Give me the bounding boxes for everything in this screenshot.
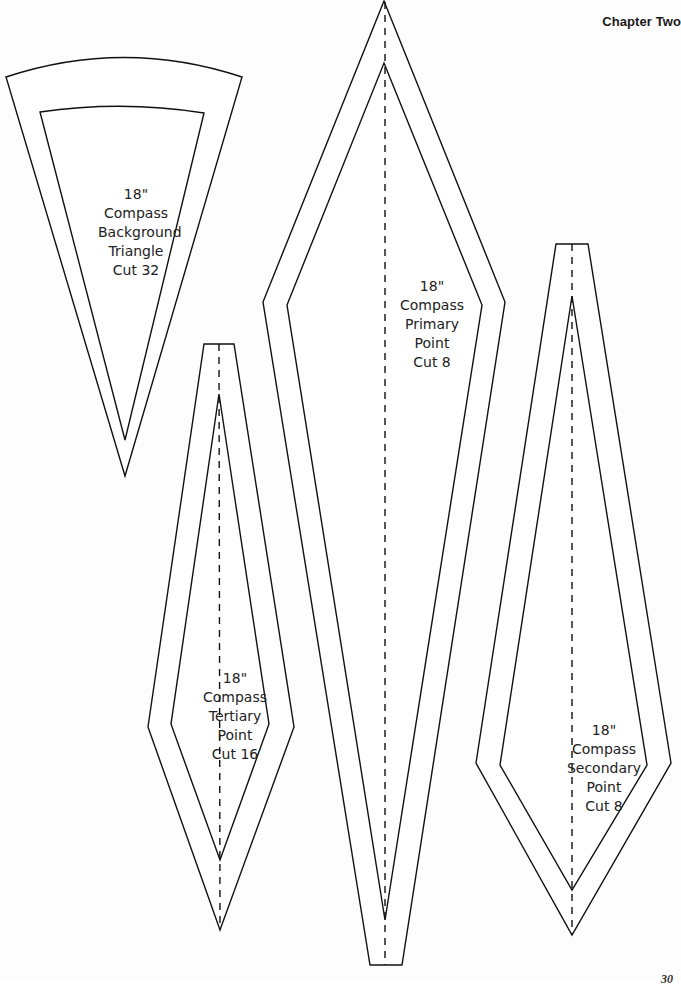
tertiary-point-template	[148, 344, 294, 930]
label-name: Compass	[564, 740, 644, 759]
label-cut-count: Cut 8	[392, 353, 472, 372]
label-type: Primary	[392, 315, 472, 334]
label-cut-count: Cut 16	[200, 745, 270, 764]
secondary-point-template	[476, 244, 671, 935]
primary-point-template	[263, 1, 505, 965]
label-shape: Point	[200, 726, 270, 745]
label-shape: Point	[392, 334, 472, 353]
label-shape: Point	[564, 778, 644, 797]
background-triangle-label: 18" Compass Background Triangle Cut 32	[98, 185, 174, 280]
label-size: 18"	[564, 721, 644, 740]
secondary-point-label: 18" Compass Secondary Point Cut 8	[564, 721, 644, 816]
label-name: Compass	[392, 296, 472, 315]
label-name: Compass	[98, 204, 174, 223]
primary-point-label: 18" Compass Primary Point Cut 8	[392, 277, 472, 372]
label-name: Compass	[200, 688, 270, 707]
page-footer: 30	[0, 972, 681, 987]
tertiary-point-label: 18" Compass Tertiary Point Cut 16	[200, 669, 270, 764]
label-type: Background	[98, 223, 174, 242]
label-size: 18"	[98, 185, 174, 204]
label-shape: Triangle	[98, 242, 174, 261]
label-cut-count: Cut 32	[98, 261, 174, 280]
page-number: 30	[661, 972, 673, 987]
label-type: Secondary	[564, 759, 644, 778]
label-size: 18"	[392, 277, 472, 296]
label-size: 18"	[200, 669, 270, 688]
label-type: Tertiary	[200, 707, 270, 726]
label-cut-count: Cut 8	[564, 797, 644, 816]
